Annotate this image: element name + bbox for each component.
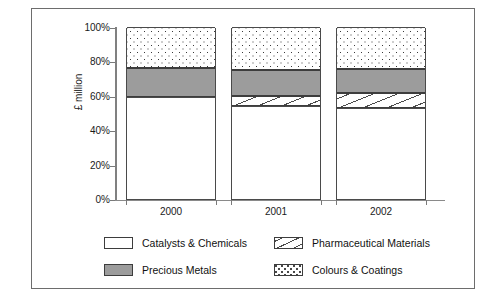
segment-2000-precious-metals: [127, 68, 215, 97]
y-tick-label-0: 0%: [96, 195, 110, 205]
dotted-box-swatch-icon: [274, 264, 303, 276]
legend-item-catalysts-chemicals[interactable]: Catalysts & Chemicals: [104, 234, 247, 251]
y-tick-label-100: 100%: [84, 23, 110, 33]
legend-item-pharmaceutical-materials[interactable]: Pharmaceutical Materials: [274, 234, 430, 251]
x-tick-mark-left-2002: [336, 200, 337, 205]
legend-item-precious-metals[interactable]: Precious Metals: [104, 261, 217, 278]
legend-label-precious-metals: Precious Metals: [142, 264, 217, 276]
y-tick-label-80: 80%: [90, 57, 110, 67]
bar-2001[interactable]: [231, 28, 321, 200]
x-tick-mark-right-2002: [426, 200, 427, 205]
segment-2001-catalysts-chemicals: [232, 106, 320, 199]
y-axis-line: [115, 27, 117, 201]
x-tick-label-2001: 2001: [231, 206, 321, 217]
segment-2002-pharmaceutical-materials: [337, 93, 425, 108]
chart-legend: Catalysts & Chemicals Pharmaceutical Mat…: [104, 234, 424, 280]
segment-2002-precious-metals: [337, 69, 425, 93]
segment-2000-colours-coatings: [127, 27, 215, 68]
plot-area: [126, 28, 426, 200]
x-tick-mark-right-2001: [321, 200, 322, 205]
chart-page: £ million 100% 80% 60% 40% 20% 0%: [0, 0, 488, 302]
y-axis-tick-labels: 100% 80% 60% 40% 20% 0%: [60, 0, 110, 302]
segment-2000-catalysts-chemicals: [127, 97, 215, 199]
gray-box-swatch-icon: [104, 264, 133, 276]
y-tick-label-40: 40%: [90, 126, 110, 136]
y-tick-label-60: 60%: [90, 92, 110, 102]
x-axis-line: [115, 200, 445, 201]
segment-2002-catalysts-chemicals: [337, 108, 425, 199]
x-tick-label-2000: 2000: [126, 206, 216, 217]
striped-box-swatch-icon: [274, 237, 303, 249]
legend-label-colours-coatings: Colours & Coatings: [312, 264, 402, 276]
segment-2002-colours-coatings: [337, 27, 425, 69]
x-tick-label-2002: 2002: [336, 206, 426, 217]
bar-2000[interactable]: [126, 28, 216, 200]
x-tick-mark-right-2000: [216, 200, 217, 205]
legend-label-pharmaceutical-materials: Pharmaceutical Materials: [312, 237, 430, 249]
y-tick-label-20: 20%: [90, 161, 110, 171]
bar-2002[interactable]: [336, 28, 426, 200]
legend-label-catalysts-chemicals: Catalysts & Chemicals: [142, 237, 247, 249]
x-tick-mark-left-2000: [126, 200, 127, 205]
legend-item-colours-coatings[interactable]: Colours & Coatings: [274, 261, 402, 278]
x-tick-mark-left-2001: [231, 200, 232, 205]
segment-2001-pharmaceutical-materials: [232, 96, 320, 106]
white-box-swatch-icon: [104, 237, 133, 249]
segment-2001-colours-coatings: [232, 27, 320, 70]
segment-2001-precious-metals: [232, 70, 320, 96]
